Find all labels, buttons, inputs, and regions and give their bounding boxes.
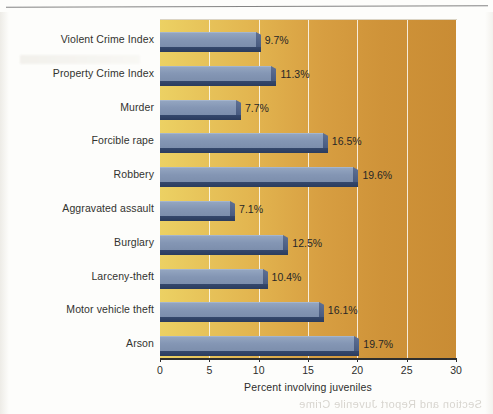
bar-shadow-base: [160, 250, 288, 255]
bar-chart: Violent Crime IndexProperty Crime IndexM…: [0, 0, 493, 414]
category-label: Larceny-theft: [6, 270, 154, 282]
bar-value-label: 11.3%: [280, 68, 309, 80]
category-axis-labels: Violent Crime IndexProperty Crime IndexM…: [6, 20, 154, 358]
bar-value-label: 19.7%: [363, 338, 393, 350]
category-label: Forcible rape: [6, 134, 154, 146]
bar-face: [160, 269, 263, 285]
bar-face: [160, 167, 353, 183]
plot-area-top-border: [160, 19, 457, 20]
bar-face: [160, 100, 236, 116]
bar-value-label: 16.1%: [328, 304, 358, 316]
tick-mark-0: [160, 358, 161, 362]
bar-value-label: 16.5%: [332, 135, 362, 147]
bar-shadow-base: [160, 81, 276, 86]
bar-shadow-base: [160, 182, 358, 187]
bar-shadow-base: [160, 148, 328, 153]
bar-face: [160, 336, 354, 352]
bar: 12.5%: [160, 235, 289, 255]
tick-mark-10: [259, 358, 260, 362]
bar-value-label: 12.5%: [292, 237, 322, 249]
x-tick-label: 25: [394, 364, 420, 376]
category-label: Violent Crime Index: [6, 33, 154, 45]
tick-mark-5: [209, 358, 210, 362]
x-tick-label: 5: [196, 364, 222, 376]
x-tick-label: 10: [246, 364, 272, 376]
x-tick-label: 0: [147, 364, 173, 376]
gridline-25: [407, 20, 408, 358]
category-label: Arson: [6, 337, 154, 349]
bar-value-label: 7.1%: [239, 203, 263, 215]
bar: 7.7%: [160, 100, 242, 120]
category-label: Property Crime Index: [6, 67, 154, 79]
bar-value-label: 9.7%: [265, 34, 289, 46]
bar-face: [160, 66, 271, 82]
bar-value-label: 10.4%: [272, 271, 302, 283]
tick-mark-20: [357, 358, 358, 362]
category-label: Murder: [6, 101, 154, 113]
x-tick-label: 15: [295, 364, 321, 376]
bar-shadow-base: [160, 216, 235, 221]
category-label: Motor vehicle theft: [6, 303, 154, 315]
bar: 10.4%: [160, 269, 269, 289]
bar-face: [160, 133, 323, 149]
category-label: Burglary: [6, 236, 154, 248]
bar-shadow-base: [160, 115, 241, 120]
bar-shadow-base: [160, 317, 324, 322]
plot-area: 9.7%11.3%7.7%16.5%19.6%7.1%12.5%10.4%16.…: [160, 20, 456, 358]
category-label: Aggravated assault: [6, 202, 154, 214]
bar-face: [160, 32, 256, 48]
bar: 19.6%: [160, 167, 359, 187]
bar: 16.5%: [160, 133, 329, 153]
bar-face: [160, 302, 319, 318]
bar-shadow-base: [160, 351, 359, 356]
category-label: Robbery: [6, 168, 154, 180]
x-axis-title: Percent involving juveniles: [160, 381, 456, 393]
x-tick-label: 20: [344, 364, 370, 376]
bar: 7.1%: [160, 201, 236, 221]
bar: 9.7%: [160, 32, 262, 52]
bar-face: [160, 235, 283, 251]
bar-shadow-base: [160, 47, 261, 52]
bar: 19.7%: [160, 336, 360, 356]
tick-mark-15: [308, 358, 309, 362]
bar-shadow-base: [160, 284, 268, 289]
bar-value-label: 19.6%: [362, 169, 392, 181]
bar: 16.1%: [160, 302, 325, 322]
x-tick-label: 30: [443, 364, 469, 376]
tick-mark-25: [407, 358, 408, 362]
bar: 11.3%: [160, 66, 277, 86]
tick-mark-30: [456, 358, 457, 362]
bar-face: [160, 201, 230, 217]
bar-value-label: 7.7%: [245, 102, 269, 114]
